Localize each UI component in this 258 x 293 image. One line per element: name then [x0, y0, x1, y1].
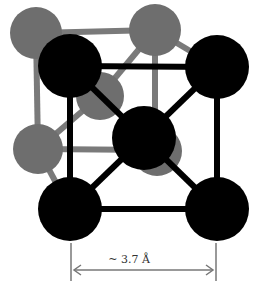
- lattice-constant-label: ~ 3.7 Å: [0, 253, 258, 266]
- atom-front-bottom-right: [185, 177, 249, 241]
- atom-front-top-right: [185, 35, 249, 99]
- bcc-unit-cell-diagram: [0, 0, 258, 293]
- atom-back-top-right: [129, 4, 181, 56]
- atom-front-top-left: [38, 34, 102, 98]
- atom-front-bottom-left: [38, 177, 102, 241]
- atom-back-bottom-left: [13, 124, 63, 174]
- atom-body-center: [112, 106, 176, 170]
